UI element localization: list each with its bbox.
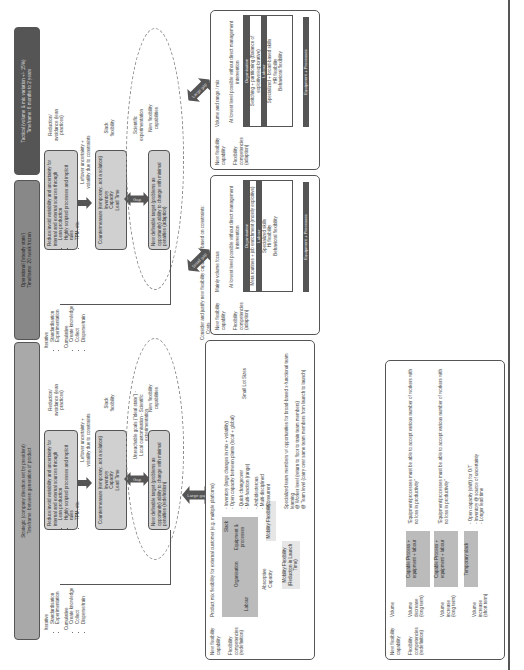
operational-reduce-box: Reduce/avoid variability and uncertainty… <box>44 150 78 250</box>
band-tactical-label: Tactical (volume & mix variation +/- 15%… <box>21 59 33 142</box>
comp-label: Flexibility competencies (adaption) <box>233 296 250 330</box>
operational-reduction-label: Reduction/ avoidance (lean practices) <box>48 105 65 145</box>
small-lot-label: Small Lot Sizes <box>242 368 248 399</box>
band-operational: Operational ('steady state') Timeframe: … <box>14 180 40 340</box>
equipment-processes-bar: Equipment + Processes <box>303 17 309 127</box>
band-strategic: Strategic (company direction set by pres… <box>14 342 40 640</box>
panel-heading: Volume and range / mix <box>215 17 221 127</box>
reduce-box-title: Reduce/avoid variability and uncertainty… <box>47 434 58 526</box>
cap-label: New flexibility capability <box>215 135 226 165</box>
cumulative-item: Disperse/train <box>81 582 87 624</box>
gap-label: Large gap <box>190 81 207 98</box>
strategic-reduction-label: Reduction/ avoidance (lean practices) <box>48 380 65 420</box>
row-box: Capable Process + equipment + labour <box>434 531 458 587</box>
organisation-label: Organisation <box>234 561 240 587</box>
counter-item: Lead Time <box>115 434 121 526</box>
reduce-item: Highly scripted processes and implicit r… <box>64 434 75 520</box>
cumulative-item: Disperse/train <box>81 300 87 342</box>
labour-item: Behavioral flexibility <box>278 16 284 126</box>
panel-heading: Mainly volume focus <box>215 182 221 292</box>
diagram-canvas: Strategic (company direction set by pres… <box>0 0 524 670</box>
operational-leftover-label: Leftover uncertainty + volatility due to… <box>80 132 91 192</box>
slack-label: Slack <box>224 521 230 532</box>
panel-intro: At lowest level possible without direct … <box>229 182 240 292</box>
row-box: Temporary slack <box>464 531 478 587</box>
iterative-item: Experimentation <box>55 582 61 624</box>
operational-iterative: Iterative StandardisationExperimentation… <box>44 300 86 348</box>
strategic-panel: New flexibility capability Flexibility c… <box>205 340 315 660</box>
page-border <box>508 0 510 670</box>
strategic-counter-box: Countermeasure (temporary...not a soluti… <box>95 430 127 530</box>
counter-box-title: Countermeasure (temporary...not a soluti… <box>98 154 104 246</box>
row-label: Volume increase (short term) <box>472 591 489 617</box>
operational-competency-box: Organisation Meta routines + job enrichm… <box>243 180 293 292</box>
row-quote: "Equipment/processes must be able to acc… <box>438 364 449 524</box>
labour-text-line: Specialized team members w/ opportunitie… <box>284 349 295 509</box>
slack-block: Slack Equipment & processes Organisation… <box>222 517 258 617</box>
operational-slack-label: Slack flexibility <box>104 116 115 140</box>
cap-label: New flexibility capability <box>210 625 221 655</box>
band-tactical: Tactical (volume & mix variation +/- 15%… <box>14 27 40 175</box>
strategic-slack-label: Slack flexibility <box>104 391 115 415</box>
operational-counter-box: Countermeasure (temporary...not a soluti… <box>95 150 127 250</box>
strategic-iterative: Iterative StandardisationExperimentation… <box>44 582 86 630</box>
band-operational-label: Operational ('steady state') Timeframe: … <box>21 232 33 288</box>
cap-label: New flexibility capability <box>390 625 401 655</box>
slack-item: - Open capacity between plants (local + … <box>230 349 236 509</box>
counter-item: Lead Time <box>115 154 121 246</box>
strategic-dashed-ellipse <box>126 338 184 560</box>
operational-panel: New flexibility capability Flexibility c… <box>210 175 320 335</box>
reduce-box-title: Reduce/avoid variability and uncertainty… <box>47 154 58 246</box>
labour-item: Behavioral flexibility <box>273 181 279 291</box>
operational-dashed-ellipse <box>126 28 184 290</box>
reduce-item: Highly scripted processes and implicit r… <box>64 154 75 240</box>
operational-feedback-line-bottom <box>170 250 171 305</box>
gap-label: Large gap <box>187 493 206 498</box>
absorptive-label: Absorptive Capacity <box>262 559 273 599</box>
strategic-feedback-line-bottom <box>170 530 171 585</box>
row-label: Volume increase (long term) <box>440 591 457 617</box>
tactical-competency-box: Organisation Switching + partitioning (B… <box>243 15 293 127</box>
panel-intro: At lowest level possible without direct … <box>229 17 240 127</box>
equipment-processes-bar: Equipment + Processes <box>303 182 309 292</box>
org-item: - Consurrent <box>266 349 272 509</box>
equipment-label: Equipment & processes <box>234 517 245 557</box>
comp-label: Flexibility competencies (redefinition) <box>408 621 425 655</box>
row-box: Capable Process + equipment + labour <box>406 531 430 587</box>
labour-label: Labour <box>244 597 250 611</box>
strategic-leftover-label: Leftover uncertainty + volatility due to… <box>80 410 91 470</box>
labour-text-line: @ Team level (carry over same team membe… <box>301 349 307 509</box>
row-quote: - Open capacity (shift) for O/T - Invent… <box>468 364 485 524</box>
counter-box-title: Countermeasure (temporary...not a soluti… <box>98 434 104 526</box>
org-text: Switching + partitioning (Balance of exp… <box>250 16 261 126</box>
iterative-item: Experimentation <box>55 300 61 342</box>
comp-label: Flexibility competencies (adaption) <box>233 131 250 165</box>
band-strategic-label: Strategic (company direction set by pres… <box>21 444 33 537</box>
labour-text: Specialized team members w/ opportunitie… <box>284 349 306 509</box>
row-quote: "Equipment/processes must be able to acc… <box>408 364 419 524</box>
org-text: Meta routines + job enrichment (mostly e… <box>250 181 256 291</box>
panel-heading: Product mix flexibility for external cus… <box>210 357 216 617</box>
volume-panel: New flexibility capability Flexibility c… <box>385 360 505 660</box>
cap-label: New flexibility capability <box>215 300 226 330</box>
tactical-panel: New flexibility capability Flexibility c… <box>210 10 320 170</box>
comp-label: Flexibility competencies (redefinition) <box>228 621 245 655</box>
strategic-reduce-box: Reduce/avoid variability and uncertainty… <box>44 430 78 530</box>
row-label: Volume decrease (long term) <box>408 591 425 617</box>
mobility-flex-launch-box: Mobility Flexibility (Reduction in Launc… <box>282 541 300 589</box>
panel-heading: Volume <box>390 602 396 617</box>
